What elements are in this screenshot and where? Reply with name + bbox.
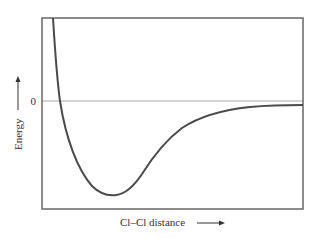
x-axis-label: Cl–Cl distance <box>120 216 185 228</box>
y-arrow-icon <box>16 76 21 82</box>
zero-label: 0 <box>31 95 37 107</box>
plot-frame <box>42 18 303 209</box>
y-axis-label: Energy <box>12 118 24 150</box>
y-axis-label-group: Energy <box>12 76 24 150</box>
energy-curve <box>53 18 303 195</box>
x-arrow-icon <box>219 221 225 226</box>
potential-energy-chart: 0 Energy Cl–Cl distance <box>0 0 315 238</box>
